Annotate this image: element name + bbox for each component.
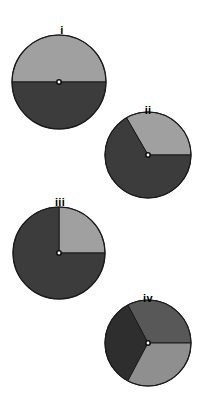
pie-center-hub-core (147, 154, 150, 157)
pie-panel-iii (13, 207, 105, 299)
panel-label-ii: ii (145, 105, 152, 116)
pie-center-hub-core (58, 81, 61, 84)
pie-chart-figure (0, 0, 209, 415)
panel-label-iii: iii (55, 197, 65, 208)
pie-center-hub-core (58, 252, 61, 255)
panel-label-i: i (60, 25, 63, 36)
panel-label-iv: iv (143, 293, 153, 304)
pie-center-hub-core (147, 342, 150, 345)
pie-panel-ii (105, 112, 191, 198)
pie-panel-iv (105, 300, 191, 386)
pie-panel-i (12, 35, 106, 129)
